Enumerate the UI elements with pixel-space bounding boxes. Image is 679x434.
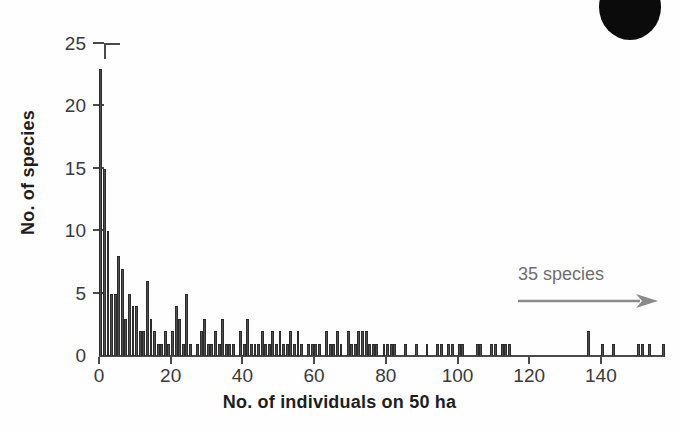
bar <box>121 269 124 356</box>
y-tick-label-5: 5 <box>44 283 86 302</box>
bar <box>282 344 285 356</box>
bar <box>332 344 335 356</box>
right-arrow-icon <box>518 293 658 309</box>
bar <box>135 306 138 356</box>
bar <box>336 331 339 356</box>
bar <box>404 344 407 356</box>
bar <box>132 306 135 356</box>
bar <box>314 344 317 356</box>
plot-area <box>99 43 664 356</box>
bar <box>264 344 267 356</box>
bar <box>210 344 213 356</box>
bar <box>490 344 493 356</box>
bar <box>390 344 393 356</box>
bar <box>383 344 386 356</box>
annotation-label: 35 species <box>518 265 668 283</box>
bar <box>612 344 615 356</box>
bar <box>232 344 235 356</box>
bar <box>164 331 167 356</box>
bar <box>641 344 644 356</box>
bar <box>440 344 443 356</box>
bar <box>117 256 120 356</box>
bar <box>476 344 479 356</box>
bar <box>340 344 343 356</box>
bar <box>103 169 106 356</box>
bar <box>354 344 357 356</box>
bar <box>286 344 289 356</box>
bar <box>254 344 257 356</box>
bar <box>648 344 651 356</box>
x-tick-label-20: 20 <box>141 366 201 385</box>
bar <box>361 331 364 356</box>
x-tick-80 <box>385 357 387 364</box>
bar <box>508 344 511 356</box>
x-tick-0 <box>98 357 100 364</box>
bar <box>325 331 328 356</box>
x-tick-60 <box>313 357 315 364</box>
bar <box>307 344 310 356</box>
bar <box>637 344 640 356</box>
bar <box>225 344 228 356</box>
x-tick-40 <box>241 357 243 364</box>
bar <box>221 319 224 356</box>
bar <box>375 344 378 356</box>
bar <box>214 331 217 356</box>
bar <box>218 344 221 356</box>
bar <box>451 344 454 356</box>
x-tick-label-120: 120 <box>499 366 559 385</box>
bar <box>268 344 271 356</box>
bar <box>289 331 292 356</box>
x-tick-label-60: 60 <box>284 366 344 385</box>
bar <box>297 331 300 356</box>
y-tick-label-10: 10 <box>44 221 86 240</box>
x-tick-140 <box>600 357 602 364</box>
bar <box>150 319 153 356</box>
bar <box>153 331 156 356</box>
bar <box>662 344 665 356</box>
bar <box>426 344 429 356</box>
bar <box>128 294 131 356</box>
bar <box>386 344 389 356</box>
y-tick-label-20: 20 <box>44 96 86 115</box>
bar <box>494 344 497 356</box>
page-corner-artifact <box>599 0 661 40</box>
bar <box>271 331 274 356</box>
x-tick-label-140: 140 <box>571 366 631 385</box>
bar <box>501 344 504 356</box>
bar <box>329 344 332 356</box>
bar <box>99 69 102 356</box>
x-tick-label-0: 0 <box>69 366 129 385</box>
bar <box>447 344 450 356</box>
x-axis-title: No. of individuals on 50 ha <box>0 392 679 413</box>
bar <box>479 344 482 356</box>
bar <box>182 344 185 356</box>
bar <box>110 294 113 356</box>
bar <box>167 344 170 356</box>
y-tick-label-0: 0 <box>44 346 86 365</box>
bar <box>239 331 242 356</box>
x-tick-label-100: 100 <box>428 366 488 385</box>
bar <box>372 344 375 356</box>
bar <box>207 344 210 356</box>
y-axis-title: No. of species <box>18 83 39 263</box>
bar <box>350 344 353 356</box>
x-tick-100 <box>457 357 459 364</box>
bar <box>157 344 160 356</box>
bar <box>203 319 206 356</box>
bar <box>124 319 127 356</box>
bar <box>300 344 303 356</box>
bar <box>146 281 149 356</box>
y-tick-label-25: 25 <box>44 34 86 53</box>
bar <box>257 344 260 356</box>
bar <box>160 344 163 356</box>
x-tick-120 <box>528 357 530 364</box>
x-tick-20 <box>170 357 172 364</box>
bar <box>275 344 278 356</box>
bar <box>461 344 464 356</box>
bar <box>347 331 350 356</box>
y-tick-label-15: 15 <box>44 158 86 177</box>
bar <box>504 344 507 356</box>
bar <box>601 344 604 356</box>
bar <box>185 294 188 356</box>
bar <box>142 331 145 356</box>
